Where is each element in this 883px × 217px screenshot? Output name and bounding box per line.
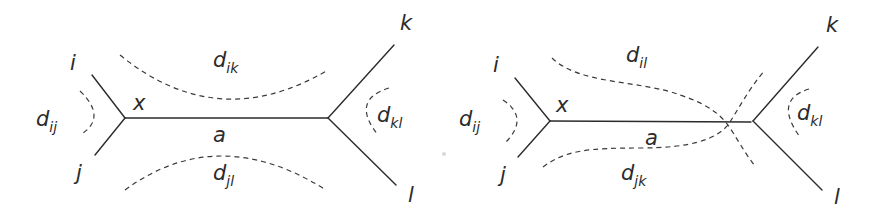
leaf-label-j: j xyxy=(497,163,506,187)
scan-artifact xyxy=(442,152,446,156)
leaf-label-k: k xyxy=(400,11,413,35)
edge-i-x xyxy=(515,78,550,121)
edge-l xyxy=(753,121,822,190)
right-tree-diagram: i j k l x a dij dkl dil djk xyxy=(459,13,840,209)
leaf-label-k: k xyxy=(826,13,839,37)
leaf-label-i: i xyxy=(493,53,499,77)
distance-label-d-ik: dik xyxy=(213,48,239,76)
node-label-x: x xyxy=(132,91,146,115)
leaf-label-j: j xyxy=(73,161,82,185)
internal-edge-a xyxy=(550,121,751,122)
distance-label-d-jl: djl xyxy=(213,161,234,189)
edge-label-a: a xyxy=(645,126,658,150)
node-label-x: x xyxy=(555,93,569,117)
leaf-label-l: l xyxy=(408,183,414,207)
distance-label-d-ij: dij xyxy=(459,107,480,135)
edge-l xyxy=(328,118,396,185)
edge-j-x xyxy=(518,121,550,157)
arc-d-ij xyxy=(503,100,517,143)
distance-label-d-kl: dkl xyxy=(377,103,402,131)
distance-label-d-jk: djk xyxy=(621,161,647,189)
leaf-label-i: i xyxy=(70,51,76,75)
edge-i-x xyxy=(92,75,125,118)
path-bottom-distance xyxy=(543,70,765,167)
arc-d-ij xyxy=(80,91,94,135)
distance-label-d-ij: dij xyxy=(36,107,57,135)
edge-j-x xyxy=(95,118,125,155)
distance-label-d-il: dil xyxy=(626,43,647,71)
distance-label-d-kl: dkl xyxy=(797,101,822,129)
left-tree-diagram: i j k l x a dij dkl dik djl xyxy=(36,11,414,207)
leaf-label-l: l xyxy=(834,185,840,209)
edge-label-a: a xyxy=(213,123,226,147)
quartet-distance-diagram: i j k l x a dij dkl dik djl i j k l x a … xyxy=(0,0,883,217)
